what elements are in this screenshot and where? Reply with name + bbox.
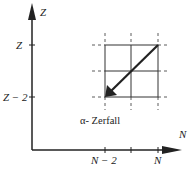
x-tick-n: N xyxy=(153,154,162,166)
y-axis xyxy=(28,3,36,150)
x-axis-arrowhead-icon xyxy=(162,146,182,154)
decay-caption: α- Zerfall xyxy=(80,115,120,126)
x-axis xyxy=(32,146,182,154)
y-tick-z-minus-2: Z − 2 xyxy=(3,91,28,103)
y-axis-label: Z xyxy=(40,6,47,18)
x-axis-label: N xyxy=(178,128,187,140)
x-tick-n-minus-2: N − 2 xyxy=(90,154,117,166)
alpha-decay-diagram: Z Z Z − 2 N N − 2 N α- Zerfall xyxy=(0,0,188,176)
y-axis-arrowhead-icon xyxy=(28,3,36,20)
y-tick-z: Z xyxy=(16,39,23,51)
